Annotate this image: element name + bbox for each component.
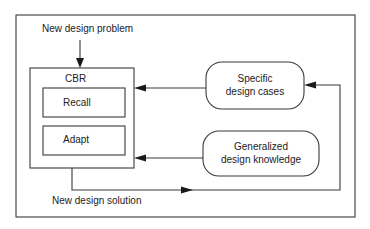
specific-line1: Specific <box>237 73 272 84</box>
cbr-diagram: New design problem CBR Recall Adapt Spec… <box>0 0 370 229</box>
recall-box: Recall <box>43 88 125 117</box>
specific-line2: design cases <box>226 86 284 97</box>
adapt-label: Adapt <box>63 134 89 145</box>
cbr-title: CBR <box>65 73 86 84</box>
cbr-box: CBR Recall Adapt <box>30 68 134 168</box>
specific-design-cases-node: Specific design cases <box>206 62 304 109</box>
new-design-solution-label: New design solution <box>52 195 142 206</box>
adapt-box: Adapt <box>43 126 125 155</box>
new-design-problem-label: New design problem <box>42 23 133 34</box>
generalized-line2: design knowledge <box>221 154 301 165</box>
generalized-design-knowledge-node: Generalized design knowledge <box>203 131 319 176</box>
recall-label: Recall <box>63 97 91 108</box>
generalized-line1: Generalized <box>234 141 288 152</box>
